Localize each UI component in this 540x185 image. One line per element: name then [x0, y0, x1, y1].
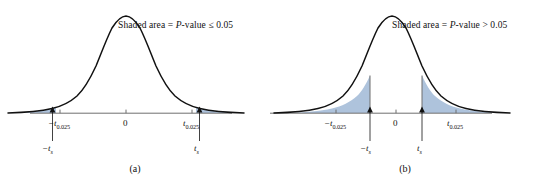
- t-distribution-curve-a: [8, 16, 244, 113]
- annotation-b: Shaded area = P-value > 0.05: [392, 20, 507, 30]
- tick-label-zero-a: 0: [123, 118, 128, 128]
- marker-label-neg-ts-b: −ts: [360, 143, 371, 155]
- tick-label-neg-critical-b: −t0.025: [324, 118, 346, 130]
- marker-label-neg-ts-a: −ts: [42, 143, 53, 155]
- annotation-b-tail: -value > 0.05: [456, 20, 508, 30]
- tick-label-pos-critical-b: t0.025: [447, 118, 463, 130]
- panel-b: Shaded area = P-value > 0.05 −t0.025 0 t…: [270, 0, 540, 185]
- annotation-b-lead: Shaded area =: [392, 20, 450, 30]
- tick-label-pos-critical-a: t0.025: [183, 118, 199, 130]
- panel-a: Shaded area = P-value ≤ 0.05 −t0.025 0 t…: [0, 0, 270, 185]
- t-distribution-curve-b: [274, 16, 510, 113]
- annotation-a: Shaded area = P-value ≤ 0.05: [118, 20, 233, 30]
- annotation-a-lead: Shaded area =: [118, 20, 176, 30]
- tick-label-neg-critical-a: −t0.025: [48, 118, 70, 130]
- marker-label-pos-ts-b: ts: [417, 143, 422, 155]
- shaded-region-left-b: [288, 76, 370, 114]
- figure-container: Shaded area = P-value ≤ 0.05 −t0.025 0 t…: [0, 0, 540, 185]
- tick-label-zero-b: 0: [393, 118, 398, 128]
- annotation-a-tail: -value ≤ 0.05: [182, 20, 234, 30]
- marker-label-pos-ts-a: ts: [194, 143, 199, 155]
- panel-b-caption: (b): [270, 163, 540, 174]
- panel-a-caption: (a): [0, 163, 270, 174]
